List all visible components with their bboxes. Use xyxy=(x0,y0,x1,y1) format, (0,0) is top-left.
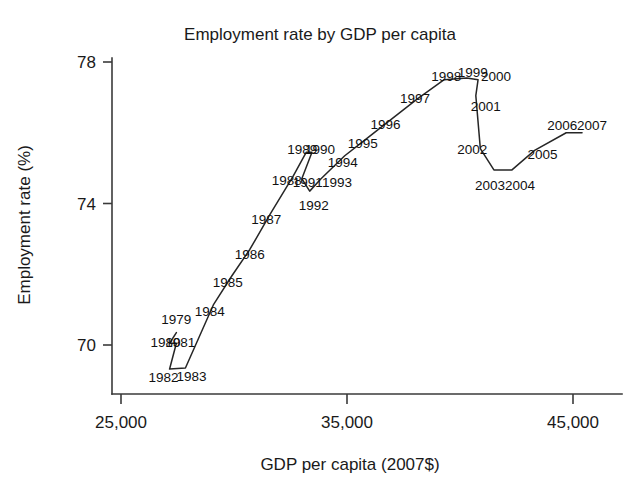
x-axis-title: GDP per capita (2007$) xyxy=(260,455,439,474)
data-point-label: 1986 xyxy=(235,247,265,262)
data-point-label: 1998 xyxy=(431,69,461,84)
x-axis: 25,00035,00045,000 xyxy=(95,394,599,432)
data-point-label: 1985 xyxy=(213,275,243,290)
y-axis: 707478 xyxy=(77,53,112,355)
data-point-label: 2003 xyxy=(475,178,505,193)
data-point-label: 2004 xyxy=(505,178,536,193)
y-tick-label: 70 xyxy=(77,336,96,355)
data-point-label: 1996 xyxy=(370,117,400,132)
employment-rate-chart: Employment rate by GDP per capita Employ… xyxy=(0,0,640,492)
y-tick-label: 74 xyxy=(77,195,96,214)
data-point-label: 1997 xyxy=(400,91,430,106)
chart-canvas: Employment rate by GDP per capita Employ… xyxy=(0,0,640,492)
data-point-label: 1991 xyxy=(293,175,323,190)
data-point-label: 1983 xyxy=(176,369,206,384)
x-tick-label: 25,000 xyxy=(95,413,147,432)
data-point-label: 1982 xyxy=(149,370,179,385)
y-axis-title: Employment rate (%) xyxy=(15,145,34,305)
point-labels-group: 1979198019811982198319841985198619871988… xyxy=(149,65,607,385)
data-point-label: 2000 xyxy=(481,69,511,84)
data-point-label: 2006 xyxy=(547,118,577,133)
data-point-label: 1995 xyxy=(348,136,378,151)
data-point-label: 1992 xyxy=(299,198,329,213)
chart-title: Employment rate by GDP per capita xyxy=(184,25,456,44)
data-point-label: 1994 xyxy=(328,155,359,170)
data-point-label: 1979 xyxy=(161,312,191,327)
data-point-label: 1984 xyxy=(195,304,226,319)
data-point-label: 1987 xyxy=(251,212,281,227)
data-point-label: 2002 xyxy=(457,142,487,157)
data-point-label: 2001 xyxy=(471,99,501,114)
y-tick-label: 78 xyxy=(77,53,96,72)
x-tick-label: 35,000 xyxy=(321,413,373,432)
data-point-label: 2007 xyxy=(577,118,607,133)
data-point-label: 1981 xyxy=(165,335,195,350)
data-point-label: 2005 xyxy=(528,147,558,162)
x-tick-label: 45,000 xyxy=(547,413,599,432)
data-point-label: 1993 xyxy=(322,175,352,190)
